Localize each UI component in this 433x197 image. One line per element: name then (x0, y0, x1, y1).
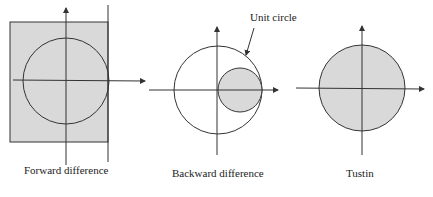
unit-circle-annotation: Unit circle (250, 11, 297, 23)
tustin-caption: Tustin (346, 167, 374, 179)
annotation-leader (246, 28, 254, 55)
backward-difference-caption: Backward difference (172, 167, 264, 179)
forward-difference-caption: Forward difference (24, 164, 108, 176)
forward-difference-diagram (10, 5, 145, 165)
shaded-half-plane (10, 22, 108, 142)
backward-difference-diagram (149, 27, 278, 155)
tustin-diagram (296, 26, 424, 155)
